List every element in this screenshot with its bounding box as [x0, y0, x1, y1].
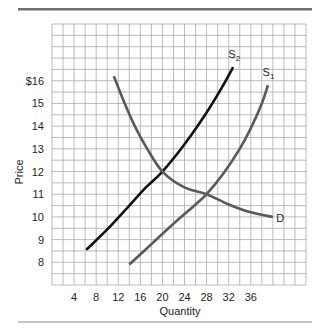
- curve-label-s2: S2: [228, 48, 240, 63]
- supply-demand-chart: 89101112131415$16 4812162024283236 S2S1D…: [0, 0, 322, 332]
- y-tick-label: 12: [32, 166, 44, 178]
- x-tick-label: 4: [71, 291, 77, 303]
- top-rule: [18, 8, 312, 11]
- x-tick-label: 16: [134, 291, 146, 303]
- x-tick-label: 24: [178, 291, 190, 303]
- y-tick-label: 14: [32, 120, 44, 132]
- x-axis-tick-labels: 4812162024283236: [71, 291, 257, 303]
- y-tick-label: 15: [32, 97, 44, 109]
- x-tick-label: 36: [245, 291, 257, 303]
- chart-curves: [86, 67, 273, 264]
- x-tick-label: 8: [93, 291, 99, 303]
- curve-labels: S2S1D: [228, 48, 284, 225]
- curve-s1: [129, 85, 268, 264]
- curve-s2: [86, 67, 233, 250]
- y-tick-label: 9: [38, 234, 44, 246]
- y-tick-label: 11: [33, 188, 44, 200]
- y-axis-label: Price: [13, 159, 25, 184]
- y-tick-label: 8: [38, 256, 44, 268]
- x-tick-label: 20: [156, 291, 168, 303]
- curve-label-d: D: [276, 212, 284, 224]
- x-tick-label: 12: [112, 291, 124, 303]
- x-tick-label: 28: [200, 291, 212, 303]
- y-axis-tick-labels: 89101112131415$16: [26, 75, 44, 269]
- x-axis-label: Quantity: [160, 305, 201, 317]
- supply-demand-figure: 89101112131415$16 4812162024283236 S2S1D…: [0, 0, 322, 332]
- bottom-rule: [18, 322, 312, 323]
- x-tick-label: 32: [223, 291, 235, 303]
- y-tick-label: 10: [32, 211, 44, 223]
- y-tick-label: 13: [32, 143, 44, 155]
- y-tick-label: $16: [26, 75, 44, 87]
